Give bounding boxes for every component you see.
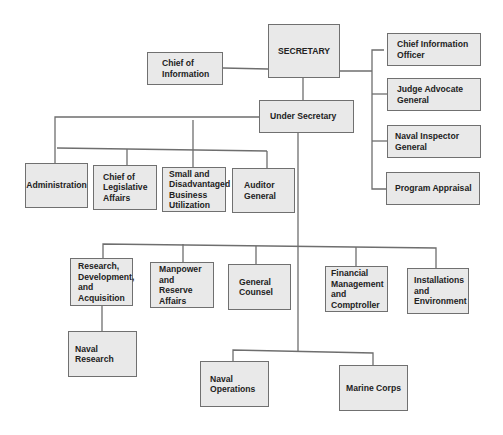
node-administration: Administration bbox=[25, 163, 88, 208]
node-research-development-acquisition: Research, Development, and Acquisition bbox=[70, 258, 133, 306]
node-general-counsel: General Counsel bbox=[228, 264, 291, 310]
node-marine-corps: Marine Corps bbox=[339, 365, 408, 411]
node-naval-operations: Naval Operations bbox=[200, 361, 269, 407]
node-under-secretary: Under Secretary bbox=[259, 100, 354, 133]
node-auditor-general: Auditor General bbox=[232, 168, 295, 213]
node-manpower-reserve-affairs: Manpower and Reserve Affairs bbox=[150, 262, 214, 308]
node-small-disadvantaged-business-utilization: Small and Disadvantaged Business Utiliza… bbox=[162, 167, 226, 212]
node-naval-research: Naval Research bbox=[68, 331, 137, 377]
org-chart: SECRETARY Chief of Information Chief Inf… bbox=[0, 0, 503, 435]
node-chief-information-officer: Chief Information Officer bbox=[387, 33, 481, 66]
node-chief-of-information: Chief of Information bbox=[147, 52, 223, 85]
node-installations-environment: Installations and Environment bbox=[407, 268, 469, 314]
node-financial-management-comptroller: Financial Management and Comptroller bbox=[325, 266, 388, 312]
node-secretary: SECRETARY bbox=[268, 24, 340, 78]
node-naval-inspector-general: Naval Inspector General bbox=[387, 125, 481, 158]
node-program-appraisal: Program Appraisal bbox=[386, 172, 480, 205]
node-judge-advocate-general: Judge Advocate General bbox=[387, 78, 481, 111]
node-chief-of-legislative-affairs: Chief of Legislative Affairs bbox=[93, 165, 157, 210]
